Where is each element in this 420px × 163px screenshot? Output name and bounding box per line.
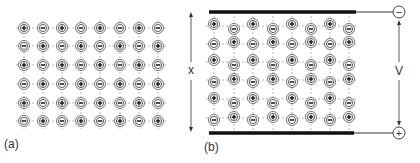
anion [153, 23, 164, 34]
cation [153, 41, 164, 52]
positive-terminal-sign: + [396, 128, 402, 139]
panel-a-lattice [16, 20, 166, 129]
anion [209, 115, 220, 126]
anion [248, 77, 259, 88]
cation [38, 116, 49, 127]
cation [209, 55, 220, 66]
cation [38, 41, 49, 52]
figure: (a) − + V x (b) [0, 0, 420, 163]
anion [134, 41, 145, 52]
cation [95, 60, 106, 71]
anion [38, 23, 49, 34]
anion [95, 79, 106, 90]
cation [248, 55, 259, 66]
cation [76, 79, 87, 90]
cation [209, 19, 220, 30]
anion [344, 24, 355, 35]
cation [306, 74, 317, 85]
cation [325, 55, 336, 66]
anion [325, 39, 336, 50]
cation [57, 98, 68, 109]
cation [153, 79, 164, 90]
anion [229, 60, 240, 71]
anion [268, 98, 279, 109]
cation [57, 60, 68, 71]
anion [38, 98, 49, 109]
anion [134, 79, 145, 90]
anion [19, 41, 30, 52]
voltage-label: V [395, 64, 403, 78]
cation [153, 116, 164, 127]
anion [229, 98, 240, 109]
anion [38, 60, 49, 71]
anion [306, 98, 317, 109]
cation [306, 112, 317, 123]
cation [325, 19, 336, 30]
anion [344, 98, 355, 109]
cation [344, 37, 355, 48]
cation [209, 93, 220, 104]
anion [57, 79, 68, 90]
anion [209, 39, 220, 50]
thickness-label: x [188, 63, 194, 77]
cation [287, 55, 298, 66]
anion [248, 39, 259, 50]
anion [153, 60, 164, 71]
panel-b-lattice [206, 16, 356, 130]
cation [268, 112, 279, 123]
anion [19, 116, 30, 127]
cation [57, 23, 68, 34]
anion [268, 24, 279, 35]
cation [115, 79, 126, 90]
anion [287, 77, 298, 88]
cation [287, 93, 298, 104]
anion [268, 60, 279, 71]
anion [287, 115, 298, 126]
cation [229, 74, 240, 85]
cation [115, 41, 126, 52]
anion [19, 79, 30, 90]
cation [38, 79, 49, 90]
anion [153, 98, 164, 109]
anion [248, 115, 259, 126]
cation [19, 23, 30, 34]
cation [134, 60, 145, 71]
anion [287, 39, 298, 50]
anion [134, 116, 145, 127]
negative-terminal: − [393, 6, 405, 18]
anion [325, 115, 336, 126]
anion [57, 116, 68, 127]
cation [287, 19, 298, 30]
anion [306, 60, 317, 71]
anion [95, 41, 106, 52]
cation [19, 98, 30, 109]
anion [76, 23, 87, 34]
positive-terminal: + [393, 127, 405, 139]
anion [344, 60, 355, 71]
anion [115, 60, 126, 71]
anion [115, 98, 126, 109]
cation [76, 41, 87, 52]
cation [229, 112, 240, 123]
cation [344, 112, 355, 123]
cation [19, 60, 30, 71]
cation [229, 37, 240, 48]
cation [268, 37, 279, 48]
anion [115, 23, 126, 34]
anion [306, 24, 317, 35]
cation [306, 37, 317, 48]
anion [76, 98, 87, 109]
cation [325, 93, 336, 104]
cation [95, 98, 106, 109]
panel-a-label: (a) [4, 137, 19, 151]
anion [57, 41, 68, 52]
anion [209, 77, 220, 88]
cation [115, 116, 126, 127]
cation [268, 74, 279, 85]
panel-b-label: (b) [204, 140, 219, 154]
cation [134, 23, 145, 34]
cation [248, 19, 259, 30]
cation [248, 93, 259, 104]
negative-terminal-sign: − [396, 6, 402, 18]
cation [134, 98, 145, 109]
